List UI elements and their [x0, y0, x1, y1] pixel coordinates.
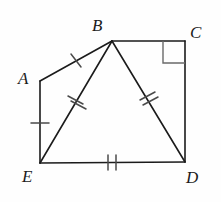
vertex-label-e: E [22, 168, 32, 185]
geometry-figure: A B C D E [0, 0, 221, 202]
vertex-label-c: C [190, 24, 201, 41]
vertex-label-a: A [18, 70, 28, 87]
vertex-label-d: D [186, 169, 198, 186]
vertex-label-b: B [92, 17, 102, 34]
segment-DE [40, 162, 185, 163]
tick-AB-1 [71, 54, 81, 67]
right-angle-marker-C [163, 41, 185, 63]
